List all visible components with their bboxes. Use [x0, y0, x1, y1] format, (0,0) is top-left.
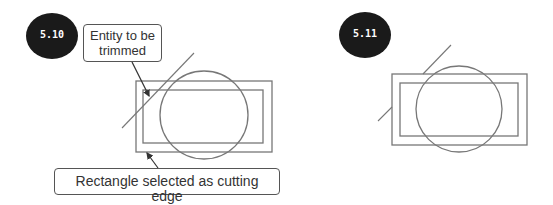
callout-cutting-edge: Rectangle selected as cutting edge — [54, 168, 280, 195]
trimmed-line-upper — [423, 45, 451, 74]
badge-5-10: 5.10 — [26, 29, 78, 40]
outer-rectangle — [392, 74, 527, 145]
badge-5-11: 5.11 — [339, 28, 391, 39]
cutting-edge-pointer-arrow — [147, 153, 158, 168]
callout-entity-to-be-trimmed: Entity to be trimmed — [83, 24, 162, 62]
circle — [160, 71, 248, 159]
entity-pointer-arrow — [132, 62, 149, 96]
circle — [416, 66, 502, 152]
trimmed-line-lower — [378, 107, 392, 121]
inner-rectangle — [400, 83, 518, 136]
